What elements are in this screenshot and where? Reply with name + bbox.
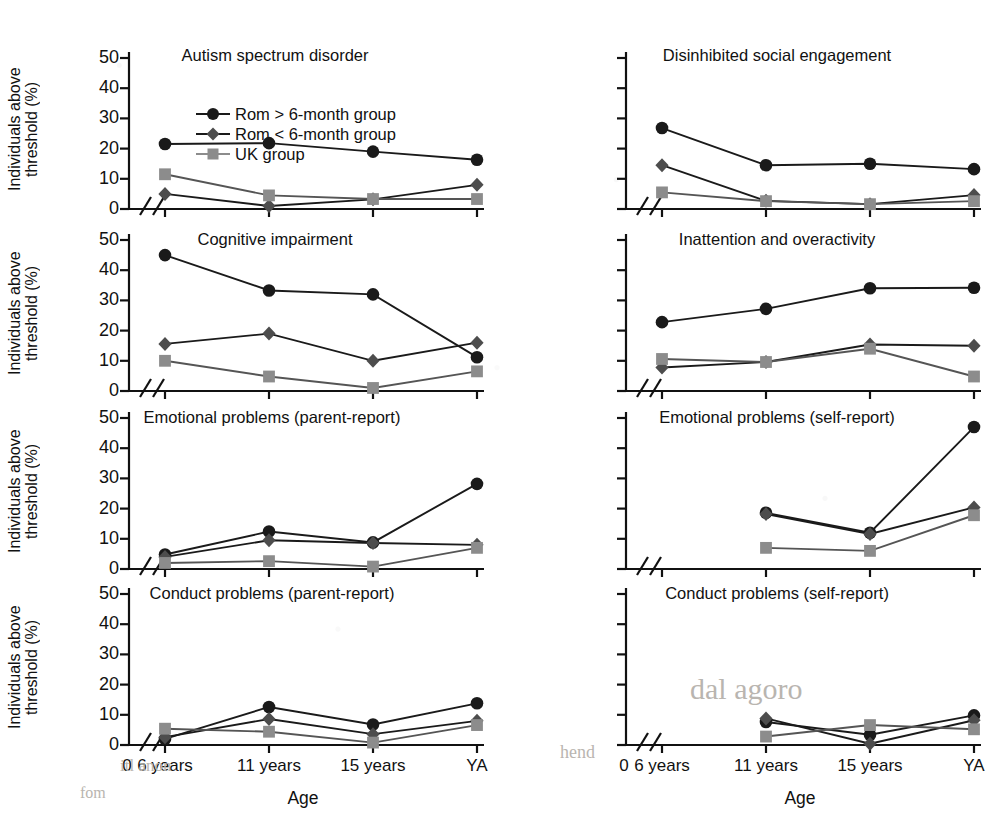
series-line: [662, 128, 974, 169]
y-tick-label: 40: [85, 78, 119, 96]
data-point-marker: [471, 351, 484, 364]
data-point-marker: [968, 509, 980, 521]
series-line: [662, 288, 974, 322]
series-line: [662, 165, 974, 204]
chart-vector-layer: [0, 0, 994, 817]
x-tick-label: YA: [425, 757, 529, 775]
data-point-marker: [864, 282, 877, 295]
y-tick-label: 0: [85, 381, 119, 399]
x-axis-title: Age: [748, 789, 852, 807]
data-point-marker: [656, 122, 669, 135]
data-point-marker: [159, 249, 172, 262]
y-tick-label: 50: [85, 408, 119, 426]
data-point-marker: [968, 281, 981, 294]
y-tick-label: 30: [85, 644, 119, 662]
data-point-marker: [864, 198, 876, 210]
data-point-marker: [864, 719, 876, 731]
y-tick-label: 0: [85, 735, 119, 753]
y-tick-label: 20: [85, 499, 119, 517]
data-point-marker: [263, 190, 275, 202]
data-point-marker: [471, 153, 484, 166]
data-point-marker: [159, 723, 171, 735]
series-line: [165, 548, 477, 567]
series-line: [165, 361, 477, 388]
x-tick-label: 15 years: [818, 757, 922, 775]
y-tick-label: 30: [85, 290, 119, 308]
y-tick-label: 10: [85, 351, 119, 369]
data-point-marker: [158, 187, 171, 201]
x-tick-label: 15 years: [321, 757, 425, 775]
data-point-marker: [263, 726, 275, 738]
data-point-marker: [760, 542, 772, 554]
y-tick-label: 50: [85, 48, 119, 66]
y-tick-label: 20: [85, 139, 119, 157]
y-tick-label: 40: [85, 260, 119, 278]
data-point-marker: [366, 354, 379, 368]
data-point-marker: [158, 337, 171, 351]
data-point-marker: [262, 712, 275, 726]
data-point-marker: [968, 723, 980, 735]
data-point-marker: [471, 719, 483, 731]
y-tick-label: 50: [85, 584, 119, 602]
y-tick-label: 0: [85, 559, 119, 577]
y-tick-label: 40: [85, 614, 119, 632]
series-line: [165, 540, 477, 557]
x-tick-label: 6 years: [610, 757, 714, 775]
panel-plot-group: [617, 234, 981, 399]
panel-plot-group: [120, 412, 484, 577]
y-tick-label: 10: [85, 705, 119, 723]
series-line: [165, 719, 477, 737]
x-axis-title: Age: [251, 789, 355, 807]
panel-plot-group: [617, 412, 981, 577]
data-point-marker: [263, 284, 276, 297]
data-point-marker: [471, 542, 483, 554]
y-tick-label: 10: [85, 169, 119, 187]
y-tick-label: 0: [85, 199, 119, 217]
data-point-marker: [470, 178, 483, 192]
data-point-marker: [470, 336, 483, 350]
data-point-marker: [263, 555, 275, 567]
data-point-marker: [159, 355, 171, 367]
data-point-marker: [655, 158, 668, 172]
data-point-marker: [760, 303, 773, 316]
data-point-marker: [864, 157, 877, 170]
panel-plot-group: [120, 52, 484, 217]
data-point-marker: [263, 701, 276, 714]
data-point-marker: [656, 316, 669, 329]
data-point-marker: [968, 163, 981, 176]
data-point-marker: [367, 737, 379, 749]
data-point-marker: [471, 478, 484, 491]
data-point-marker: [471, 193, 483, 205]
series-line: [165, 143, 477, 160]
data-point-marker: [367, 382, 379, 394]
panel-plot-group: [120, 234, 484, 399]
series-line: [165, 334, 477, 361]
data-point-marker: [967, 339, 980, 353]
panel-plot-group: [120, 588, 484, 753]
x-tick-label: YA: [922, 757, 994, 775]
data-point-marker: [864, 343, 876, 355]
data-point-marker: [471, 697, 484, 710]
y-tick-label: 30: [85, 468, 119, 486]
data-point-marker: [968, 421, 981, 434]
data-point-marker: [263, 137, 276, 150]
y-tick-label: 40: [85, 438, 119, 456]
x-tick-label: 6 years: [113, 757, 217, 775]
data-point-marker: [159, 168, 171, 180]
data-point-marker: [656, 186, 668, 198]
data-point-marker: [760, 159, 773, 172]
data-point-marker: [968, 195, 980, 207]
x-tick-label: 11 years: [217, 757, 321, 775]
data-point-marker: [367, 288, 380, 301]
y-tick-label: 20: [85, 321, 119, 339]
data-point-marker: [471, 365, 483, 377]
y-tick-label: 10: [85, 529, 119, 547]
data-point-marker: [367, 561, 379, 573]
y-tick-label: 30: [85, 108, 119, 126]
data-point-marker: [656, 353, 668, 365]
data-point-marker: [159, 138, 172, 151]
data-point-marker: [760, 731, 772, 743]
data-point-marker: [159, 557, 171, 569]
panel-plot-group: [617, 588, 981, 753]
data-point-marker: [760, 356, 772, 368]
